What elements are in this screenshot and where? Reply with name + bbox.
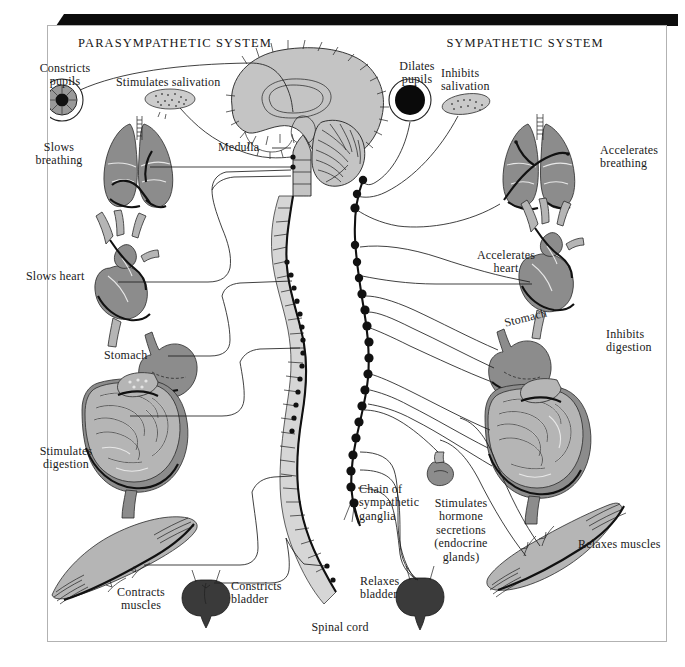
label-dilates-pupils: Dilates pupils xyxy=(386,60,448,87)
salivary-gland-left-illustration xyxy=(145,89,195,119)
label-slows-breathing: Slows breathing xyxy=(24,141,94,168)
label-stimulates-hormone-secretions: Stimulates hormone secretions (endocrine… xyxy=(420,497,502,564)
label-accelerates-heart: Accelerates heart xyxy=(469,249,543,276)
lungs-right-illustration xyxy=(503,114,575,209)
bladder-left-illustration xyxy=(182,570,230,628)
label-medulla: Medulla xyxy=(218,141,272,154)
label-contracts-muscles: Contracts muscles xyxy=(104,586,178,613)
autonomic-nervous-system-figure: .ln{fill:none;stroke:#1f1f1f;stroke-widt… xyxy=(0,0,685,667)
label-constricts-bladder: Constricts bladder xyxy=(231,580,301,607)
heading-sympathetic: SYMPATHETIC SYSTEM xyxy=(420,36,630,50)
label-inhibits-digestion: Inhibits digestion xyxy=(606,328,680,355)
sympathetic-ganglia-chain xyxy=(346,176,373,526)
label-slows-heart: Slows heart xyxy=(26,270,112,283)
label-stimulates-salivation: Stimulates salivation xyxy=(116,76,272,89)
label-stimulates-digestion: Stimulates digestion xyxy=(26,445,106,472)
label-relaxes-muscles: Relaxes muscles xyxy=(578,538,685,551)
label-constricts-pupils: Constricts pupils xyxy=(26,62,104,89)
label-spinal-cord: Spinal cord xyxy=(302,621,378,634)
label-stomach-parasympathetic: Stomach xyxy=(104,349,162,362)
adrenal-gland-illustration xyxy=(427,452,453,486)
label-inhibits-salivation: Inhibits salivation xyxy=(441,67,515,94)
anatomy-artwork: .ln{fill:none;stroke:#1f1f1f;stroke-widt… xyxy=(0,0,685,667)
label-accelerates-breathing: Accelerates breathing xyxy=(600,144,682,171)
heading-parasympathetic: PARASYMPATHETIC SYSTEM xyxy=(70,36,280,50)
spinal-cord-illustration xyxy=(271,196,336,604)
lungs-left-illustration xyxy=(104,116,173,207)
salivary-gland-right-illustration xyxy=(441,91,491,117)
label-relaxes-bladder: Relaxes bladder xyxy=(360,575,418,602)
